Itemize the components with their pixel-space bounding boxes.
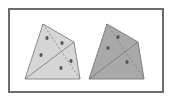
dot-marker: [45, 36, 48, 40]
dot-marker: [106, 46, 109, 50]
quadrilateral-body: [25, 24, 80, 79]
dot-marker: [125, 60, 128, 64]
right-quadrilateral: [89, 24, 144, 79]
diagram-frame: [9, 9, 163, 92]
dot-marker: [69, 59, 72, 63]
quadrilateral-body: [89, 24, 144, 79]
diagram-canvas: [0, 0, 170, 99]
dot-marker: [59, 66, 62, 70]
left-quadrilateral: [25, 24, 80, 79]
dot-marker: [60, 41, 63, 45]
dot-marker: [116, 35, 119, 39]
dot-marker: [39, 53, 42, 57]
